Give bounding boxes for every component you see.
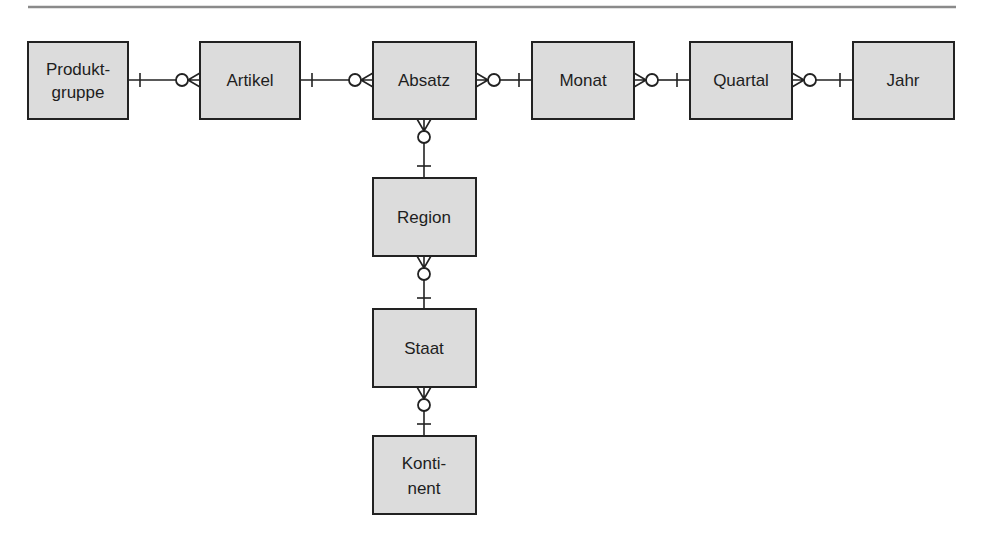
entity-staat[interactable]: Staat — [373, 309, 476, 387]
zero-circle-icon — [488, 74, 500, 86]
entity-monat[interactable]: Monat — [532, 42, 634, 119]
entity-label: Region — [397, 208, 451, 227]
crows-foot-icon — [417, 387, 431, 399]
entity-kontinent[interactable]: Konti- nent — [373, 436, 476, 514]
zero-circle-icon — [418, 131, 430, 143]
entity-label: gruppe — [52, 83, 105, 102]
crows-foot-icon — [361, 73, 373, 87]
relation-absatz-region — [417, 119, 431, 178]
entity-label: Artikel — [226, 71, 273, 90]
er-diagram: Produkt- gruppe Artikel Absatz Monat Qua… — [0, 0, 983, 542]
entity-region[interactable]: Region — [373, 178, 476, 256]
entity-jahr[interactable]: Jahr — [853, 42, 954, 119]
entity-quartal[interactable]: Quartal — [690, 42, 792, 119]
zero-circle-icon — [418, 399, 430, 411]
entity-absatz[interactable]: Absatz — [373, 42, 476, 119]
entity-label: Staat — [404, 339, 444, 358]
crows-foot-icon — [476, 73, 488, 87]
entity-label: nent — [407, 479, 440, 498]
entity-artikel[interactable]: Artikel — [200, 42, 300, 119]
relation-monat-quartal — [634, 73, 690, 87]
entity-label: Produkt- — [46, 60, 110, 79]
relation-produktgruppe-artikel — [128, 73, 200, 87]
relation-staat-kontinent — [417, 387, 431, 436]
crows-foot-icon — [417, 119, 431, 131]
crows-foot-icon — [634, 73, 646, 87]
entity-produktgruppe[interactable]: Produkt- gruppe — [28, 42, 128, 119]
crows-foot-icon — [188, 73, 200, 87]
entity-label: Quartal — [713, 71, 769, 90]
crows-foot-icon — [417, 256, 431, 268]
entity-label: Jahr — [886, 71, 919, 90]
zero-circle-icon — [176, 74, 188, 86]
relation-quartal-jahr — [792, 73, 853, 87]
entity-label: Monat — [559, 71, 607, 90]
entity-label: Absatz — [398, 71, 450, 90]
entity-label: Konti- — [402, 454, 446, 473]
zero-circle-icon — [804, 74, 816, 86]
zero-circle-icon — [349, 74, 361, 86]
relation-artikel-absatz — [300, 73, 373, 87]
zero-circle-icon — [646, 74, 658, 86]
relation-absatz-monat — [476, 73, 532, 87]
crows-foot-icon — [792, 73, 804, 87]
relation-region-staat — [417, 256, 431, 309]
zero-circle-icon — [418, 268, 430, 280]
